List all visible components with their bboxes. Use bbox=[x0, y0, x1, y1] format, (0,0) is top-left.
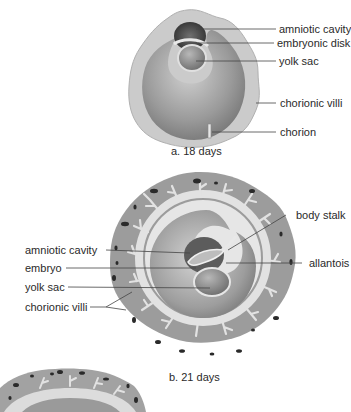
caption-b: b. 21 days bbox=[169, 371, 220, 383]
label-chorionic-villi-a: chorionic villi bbox=[280, 97, 342, 109]
figure-b-21-days bbox=[66, 172, 302, 356]
label-amniotic-cavity-b: amniotic cavity bbox=[25, 244, 97, 256]
label-chorionic-villi-b: chorionic villi bbox=[25, 301, 87, 313]
figure-a-18-days bbox=[129, 10, 276, 148]
label-yolk-sac-a: yolk sac bbox=[279, 55, 319, 67]
label-yolk-sac-b: yolk sac bbox=[25, 281, 65, 293]
figure-c-partial bbox=[0, 369, 146, 412]
caption-a: a. 18 days bbox=[171, 145, 222, 157]
label-embryonic-disk-a: embryonic disk bbox=[277, 37, 350, 49]
label-amniotic-cavity-a: amniotic cavity bbox=[279, 23, 351, 35]
label-chorion-a: chorion bbox=[280, 126, 316, 138]
yolk-sac-a bbox=[178, 45, 206, 71]
label-embryo-b: embryo bbox=[25, 262, 62, 274]
yolk-sac-b bbox=[194, 268, 230, 296]
label-allantois-b: allantois bbox=[309, 257, 349, 269]
label-body-stalk-b: body stalk bbox=[296, 209, 346, 221]
